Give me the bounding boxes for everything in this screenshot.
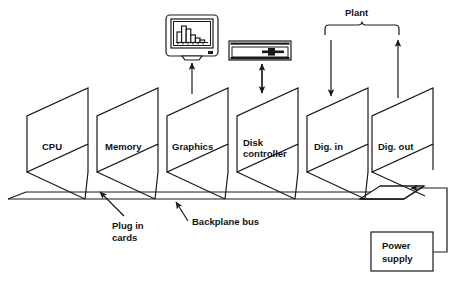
backplane-bus-label: Backplane bus — [192, 216, 259, 227]
card-label-disk-controller-line2: controller — [243, 148, 287, 159]
plug-in-cards-label-line1: Plug in — [112, 220, 144, 231]
card-dig-in[interactable]: Dig. in — [307, 88, 368, 199]
card-graphics[interactable]: Graphics — [167, 88, 228, 199]
card-label-disk-controller-line1: Disk — [243, 137, 264, 148]
card-label-graphics: Graphics — [172, 141, 213, 152]
card-disk-controller[interactable]: Disk controller — [237, 88, 298, 199]
card-cpu[interactable]: CPU — [27, 88, 88, 199]
plug-in-cards-label-line2: cards — [112, 232, 137, 243]
disk-drive-icon — [229, 41, 291, 60]
crt-monitor-icon — [166, 15, 218, 60]
plant-label: Plant — [345, 7, 369, 18]
diagram-canvas: CPU Memory Graphics Disk controller Dig.… — [0, 0, 454, 285]
card-label-dig-out: Dig. out — [378, 141, 414, 152]
plant-bracket — [325, 22, 399, 36]
card-label-cpu: CPU — [42, 141, 62, 152]
card-dig-out[interactable]: Dig. out — [372, 88, 433, 196]
backplane-system-diagram: CPU Memory Graphics Disk controller Dig.… — [0, 0, 454, 285]
backplane-bus-leader — [176, 202, 188, 221]
card-memory[interactable]: Memory — [97, 88, 158, 199]
power-supply-label-line2: supply — [382, 253, 413, 264]
power-supply-box[interactable]: Power supply — [371, 232, 433, 271]
card-label-dig-in: Dig. in — [314, 141, 343, 152]
plug-in-cards-leader — [100, 192, 124, 216]
power-supply-label-line1: Power — [382, 240, 411, 251]
card-label-memory: Memory — [105, 141, 142, 152]
